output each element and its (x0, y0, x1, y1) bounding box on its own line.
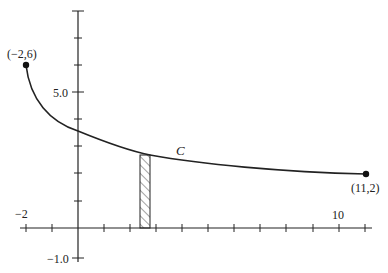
area-strip (140, 155, 150, 228)
end-point-marker (363, 171, 369, 177)
start-point-label: (−2,6) (7, 47, 37, 61)
x-axis (20, 224, 372, 232)
x-tick-label-neg2: −2 (15, 207, 28, 221)
y-tick-label-neg1: −1.0 (47, 252, 69, 266)
x-tick-label-10: 10 (332, 208, 344, 222)
start-point-marker (23, 62, 29, 68)
figure-canvas: (−2,6) (11,2) C −2 10 5.0 −1.0 (0, 0, 388, 273)
curve-label: C (176, 143, 185, 158)
y-axis (72, 11, 84, 262)
y-tick-label-5: 5.0 (53, 86, 68, 100)
end-point-label: (11,2) (351, 181, 380, 195)
